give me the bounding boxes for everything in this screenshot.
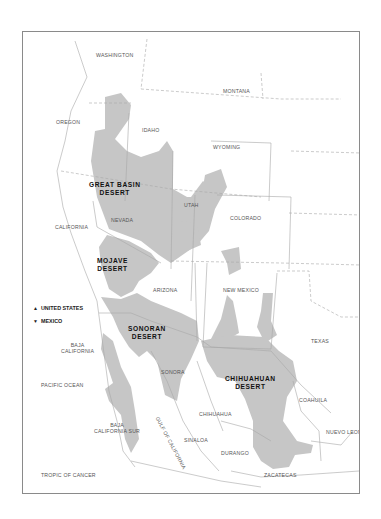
label-coahuila: COAHUILA xyxy=(299,398,327,404)
desert-suffix: DESERT xyxy=(225,383,276,391)
label-pacific-ocean: PACIFIC OCEAN xyxy=(41,383,84,389)
desert-name: CHIHUAHUAN xyxy=(225,375,276,383)
label-durango: DURANGO xyxy=(221,451,249,457)
legend-united-states: ▲UNITED STATES xyxy=(33,305,83,311)
label-sinaloa: SINALOA xyxy=(184,438,208,444)
label-line: CALIFORNIA SUR xyxy=(94,429,140,435)
label-oregon: OREGON xyxy=(56,120,80,126)
map-frame: WASHINGTON MONTANA OREGON IDAHO WYOMING … xyxy=(22,31,360,494)
label-montana: MONTANA xyxy=(223,89,250,95)
triangle-up-icon: ▲ xyxy=(33,305,38,311)
triangle-down-icon: ▼ xyxy=(33,318,38,324)
chihuahuan-region xyxy=(201,335,313,469)
label-arizona: ARIZONA xyxy=(153,288,177,294)
label-tropic-of-cancer: TROPIC OF CANCER xyxy=(41,473,96,479)
label-great-basin-desert: GREAT BASIN DESERT xyxy=(89,181,141,197)
legend-mexico: ▼MEXICO xyxy=(33,318,62,324)
map-canvas xyxy=(23,32,360,494)
label-wyoming: WYOMING xyxy=(213,145,240,151)
label-idaho: IDAHO xyxy=(142,128,159,134)
label-zacatecas: ZACATECAS xyxy=(264,473,297,479)
label-texas: TEXAS xyxy=(311,339,329,345)
new-mexico-fingers xyxy=(221,247,241,275)
label-chihuahua: CHIHUAHUA xyxy=(199,412,232,418)
label-california: CALIFORNIA xyxy=(55,225,88,231)
desert-suffix: DESERT xyxy=(128,333,166,341)
desert-suffix: DESERT xyxy=(97,265,128,273)
label-sonoran-desert: SONORAN DESERT xyxy=(128,325,166,341)
label-line: CALIFORNIA xyxy=(61,349,94,355)
label-new-mexico: NEW MEXICO xyxy=(223,288,259,294)
label-nuevo-leon: NUEVO LEON xyxy=(326,430,360,436)
label-colorado: COLORADO xyxy=(230,216,261,222)
label-sonora: SONORA xyxy=(161,370,185,376)
desert-name: GREAT BASIN xyxy=(89,181,141,189)
desert-suffix: DESERT xyxy=(89,189,141,197)
label-baja-california: BAJA CALIFORNIA xyxy=(61,343,94,355)
new-mexico-finger-3 xyxy=(257,293,277,343)
label-chihuahuan-desert: CHIHUAHUAN DESERT xyxy=(225,375,276,391)
legend-label: UNITED STATES xyxy=(41,305,83,311)
label-nevada: NEVADA xyxy=(111,218,133,224)
desert-name: MOJAVE xyxy=(97,257,128,265)
desert-name: SONORAN xyxy=(128,325,166,333)
label-mojave-desert: MOJAVE DESERT xyxy=(97,257,128,273)
legend-label: MEXICO xyxy=(41,318,62,324)
label-baja-california-sur: BAJA CALIFORNIA SUR xyxy=(94,423,140,435)
label-washington: WASHINGTON xyxy=(96,53,133,59)
label-utah: UTAH xyxy=(184,203,199,209)
